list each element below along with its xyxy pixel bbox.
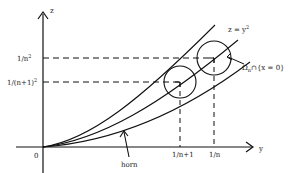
horn-diagram: z y 0 1/n2 1/(n+1)2 1/n+1 1/n z = y2 Ωn∩… bbox=[0, 0, 291, 173]
origin-label: 0 bbox=[34, 152, 38, 160]
region-label-omega-n-intersect-x-0: Ωn∩{x = 0} bbox=[242, 64, 285, 73]
z-axis-label: z bbox=[50, 7, 54, 15]
y-axis-label: y bbox=[258, 145, 263, 153]
z-tick-label-1-over-n-squared: 1/n2 bbox=[17, 53, 32, 63]
y-tick-label-1-over-n: 1/n bbox=[209, 151, 221, 159]
z-tick-label-1-over-n-plus-1-squared: 1/(n+1)2 bbox=[7, 77, 37, 87]
y-tick-label-1-over-n-plus-1: 1/n+1 bbox=[172, 151, 194, 159]
curve-label-z-equals-y-squared: z = y2 bbox=[228, 24, 249, 34]
horn-label: horn bbox=[121, 161, 138, 169]
horn-center-curve-z-equals-y-squared bbox=[43, 40, 238, 147]
